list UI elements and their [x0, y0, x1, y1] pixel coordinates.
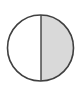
fraction-circle-diagram — [0, 0, 79, 89]
unshaded-half — [8, 15, 41, 81]
shaded-half — [41, 15, 74, 81]
